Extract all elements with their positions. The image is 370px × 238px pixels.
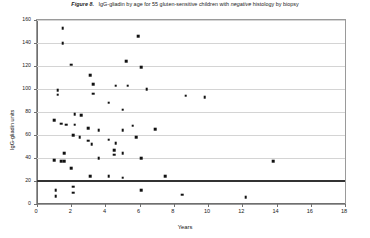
- data-point: [72, 191, 75, 194]
- data-point: [56, 89, 59, 92]
- data-point: [55, 195, 58, 198]
- y-axis-tick-mark: [34, 66, 37, 67]
- y-axis-tick-label: 160: [7, 16, 31, 22]
- data-point: [154, 128, 157, 131]
- data-point: [63, 160, 66, 163]
- data-point: [61, 42, 64, 45]
- gridline-y: [37, 158, 345, 159]
- x-axis-tick-mark: [105, 204, 106, 207]
- data-point: [145, 88, 148, 91]
- y-axis-tick-mark: [34, 89, 37, 90]
- x-axis-tick-mark: [345, 204, 346, 207]
- data-point: [92, 83, 95, 86]
- x-axis-tick-label: 8: [161, 208, 185, 214]
- x-axis-tick-label: 6: [127, 208, 151, 214]
- data-point: [108, 102, 111, 105]
- x-axis-tick-label: 0: [24, 208, 48, 214]
- data-point: [97, 157, 100, 160]
- caption-text-1: IgG-gliadin by age for 55 gluten-sensiti…: [99, 1, 231, 7]
- data-point: [53, 159, 56, 162]
- gridline-y: [37, 43, 345, 44]
- data-point: [63, 152, 66, 155]
- y-axis-tick-label: 20: [7, 177, 31, 183]
- x-axis-tick-label: 4: [92, 208, 116, 214]
- data-point: [92, 92, 95, 95]
- data-point: [113, 149, 116, 152]
- y-axis-tick-label: 120: [7, 62, 31, 68]
- data-point: [89, 74, 92, 77]
- y-axis-tick-mark: [34, 158, 37, 159]
- data-point: [53, 119, 56, 122]
- y-axis-tick-mark: [34, 135, 37, 136]
- data-point: [60, 122, 63, 125]
- x-axis-tick-mark: [277, 204, 278, 207]
- data-point: [272, 160, 275, 163]
- gridline-y: [37, 66, 345, 67]
- x-axis-tick-label: 10: [195, 208, 219, 214]
- data-point: [114, 84, 117, 87]
- caption-emphasis: negative: [231, 1, 252, 7]
- threshold-reference-line: [37, 180, 345, 182]
- data-point: [121, 129, 124, 132]
- data-point: [121, 108, 124, 111]
- figure-label: Figure 8.: [71, 1, 94, 7]
- data-point: [125, 60, 128, 63]
- data-point: [70, 64, 73, 67]
- x-axis-tick-mark: [71, 204, 72, 207]
- data-point: [108, 175, 111, 178]
- y-axis-tick-mark: [34, 43, 37, 44]
- data-point: [72, 185, 75, 188]
- data-point: [135, 136, 138, 139]
- x-axis-tick-label: 16: [298, 208, 322, 214]
- data-point: [164, 175, 167, 178]
- x-axis-tick-mark: [311, 204, 312, 207]
- x-axis-tick-label: 2: [58, 208, 82, 214]
- y-axis-title: IgG-gliadin units: [9, 110, 15, 150]
- data-point: [65, 123, 68, 126]
- data-point: [55, 189, 58, 192]
- figure-caption: Figure 8. IgG-gliadin by age for 55 glut…: [0, 1, 370, 7]
- data-point: [185, 95, 188, 98]
- x-axis-tick-label: 12: [229, 208, 253, 214]
- data-point: [113, 153, 116, 156]
- x-axis-tick-mark: [140, 204, 141, 207]
- y-axis-tick-label: 60: [7, 131, 31, 137]
- data-point: [61, 27, 64, 30]
- gridline-y: [37, 135, 345, 136]
- data-point: [121, 152, 124, 155]
- data-point: [203, 96, 206, 99]
- data-point: [87, 139, 90, 142]
- data-point: [78, 136, 81, 139]
- gridline-y: [37, 20, 345, 21]
- data-point: [140, 66, 143, 69]
- data-point: [140, 189, 143, 192]
- figure-container: Figure 8. IgG-gliadin by age for 55 glut…: [0, 0, 370, 238]
- x-axis-tick-mark: [37, 204, 38, 207]
- data-point: [80, 114, 83, 117]
- data-point: [73, 113, 76, 116]
- caption-text-2: histology by biopsy: [251, 1, 298, 7]
- y-axis-tick-label: 140: [7, 39, 31, 45]
- gridline-y: [37, 89, 345, 90]
- data-point: [72, 134, 75, 137]
- x-axis-tick-label: 18: [332, 208, 356, 214]
- data-point: [70, 167, 73, 170]
- gridline-y: [37, 112, 345, 113]
- data-point: [60, 160, 63, 163]
- data-point: [114, 142, 117, 145]
- y-axis-tick-mark: [34, 20, 37, 21]
- y-axis-tick-label: 0: [7, 200, 31, 206]
- data-point: [137, 35, 140, 38]
- data-point: [90, 143, 93, 146]
- y-axis-tick-mark: [34, 112, 37, 113]
- data-point: [87, 127, 90, 130]
- x-axis-tick-label: 14: [264, 208, 288, 214]
- data-point: [89, 175, 92, 178]
- y-axis-tick-label: 100: [7, 85, 31, 91]
- data-point: [73, 123, 76, 126]
- x-axis-title: Years: [0, 224, 370, 230]
- data-point: [140, 157, 143, 160]
- plot-area: [36, 19, 346, 205]
- data-point: [56, 93, 59, 96]
- data-point: [126, 84, 129, 87]
